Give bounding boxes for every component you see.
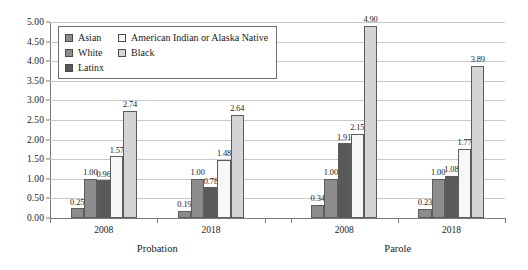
bar-probation-2008-series-1[interactable] [84,179,97,218]
bar-parole-2018-series-4[interactable] [471,66,484,218]
bar-probation-2018-series-4[interactable] [231,115,244,218]
legend-item-asian[interactable]: Asian [65,31,104,44]
y-tick-label-5.00: 5.00 [27,17,44,27]
group-tickmark [291,218,292,223]
legend-label-latinx: Latinx [78,62,104,73]
legend-item-black[interactable]: Black [118,46,268,59]
bar-value-label: 1.00 [83,168,97,177]
legend-item-latinx[interactable]: Latinx [65,61,104,74]
y-tick-label-1.50: 1.50 [27,154,44,164]
bar-value-label: 1.00 [431,168,445,177]
bar-value-label: 0.96 [96,170,110,179]
bar-parole-2018-series-0[interactable] [418,209,431,218]
bar-value-label: 0.25 [70,198,84,207]
group-tickmark [265,218,266,223]
legend-swatch-latinx [65,64,73,72]
y-tick-label-4.50: 4.50 [27,37,44,47]
bar-value-label: 1.48 [217,149,231,158]
group-tickmark [398,218,399,223]
y-tick-label-3.00: 3.00 [27,95,44,105]
legend-column-2: American Indian or Alaska Native Black [118,31,268,74]
bar-probation-2008-series-0[interactable] [71,208,84,218]
bar-parole-2008-series-4[interactable] [364,26,377,218]
legend-item-american-indian-or-alaska-native[interactable]: American Indian or Alaska Native [118,31,268,44]
bar-probation-2008-series-2[interactable] [97,180,110,218]
bar-parole-2018-series-1[interactable] [432,179,445,218]
bar-value-label: 0.78 [204,177,218,186]
bar-value-label: 2.15 [350,123,364,132]
bar-parole-2008-series-0[interactable] [311,205,324,218]
bar-value-label: 1.91 [337,133,351,142]
bar-parole-2008-series-3[interactable] [351,134,364,218]
bar-value-label: 1.77 [457,138,471,147]
bar-probation-2018-series-1[interactable] [191,179,204,218]
y-tick-label-0.50: 0.50 [27,193,44,203]
legend-swatch-asian [65,34,73,42]
y-tick-label-2.50: 2.50 [27,115,44,125]
bar-value-label: 2.64 [230,104,244,113]
bar-probation-2008-series-4[interactable] [123,111,136,218]
x-axis-group-label-2008-0: 2008 [94,225,113,235]
gridline-0.00 [50,218,505,219]
bar-value-label: 0.23 [418,198,432,207]
legend-swatch-american-indian-or-alaska-native [118,34,126,42]
bar-value-label: 2.74 [123,100,137,109]
chart-legend: Asian White Latinx American Indian or Al… [58,26,277,79]
bar-value-label: 1.00 [191,168,205,177]
group-tickmark [50,218,51,223]
legend-swatch-white [65,49,73,57]
bar-parole-2008-series-1[interactable] [324,179,337,218]
bar-value-label: 1.57 [110,146,124,155]
bar-probation-2018-series-0[interactable] [178,211,191,218]
legend-column-1: Asian White Latinx [65,31,104,74]
bar-parole-2018-series-3[interactable] [458,149,471,218]
panel-label-parole: Parole [384,243,411,254]
bar-parole-2018-series-2[interactable] [445,176,458,218]
bar-probation-2008-series-3[interactable] [110,156,123,218]
legend-swatch-black [118,49,126,57]
x-axis-group-label-2018-3: 2018 [442,225,461,235]
x-axis-group-label-2018-1: 2018 [201,225,220,235]
bar-value-label: 4.90 [363,15,377,24]
bar-probation-2018-series-3[interactable] [217,160,230,218]
group-tickmark [505,218,506,223]
bar-value-label: 1.00 [324,168,338,177]
legend-item-white[interactable]: White [65,46,104,59]
x-axis-group-label-2008-2: 2008 [335,225,354,235]
y-tick-label-3.50: 3.50 [27,76,44,86]
bar-value-label: 0.34 [311,194,325,203]
y-tick-label-4.00: 4.00 [27,56,44,66]
legend-label-white: White [78,47,102,58]
bar-value-label: 1.08 [444,165,458,174]
group-tickmark [157,218,158,223]
legend-label-black: Black [131,47,154,58]
y-tick-label-2.00: 2.00 [27,135,44,145]
bar-parole-2008-series-2[interactable] [338,143,351,218]
bar-value-label: 3.89 [471,55,485,64]
bar-value-label: 0.19 [177,200,191,209]
panel-label-probation: Probation [137,243,178,254]
y-tick-label-1.00: 1.00 [27,174,44,184]
bar-probation-2018-series-2[interactable] [204,187,217,218]
grouped-bar-chart: 0.000.501.001.502.002.503.003.504.004.50… [0,0,528,270]
y-tick-label-0.00: 0.00 [27,213,44,223]
legend-label-asian: Asian [78,32,101,43]
legend-label-american-indian-or-alaska-native: American Indian or Alaska Native [131,32,268,43]
